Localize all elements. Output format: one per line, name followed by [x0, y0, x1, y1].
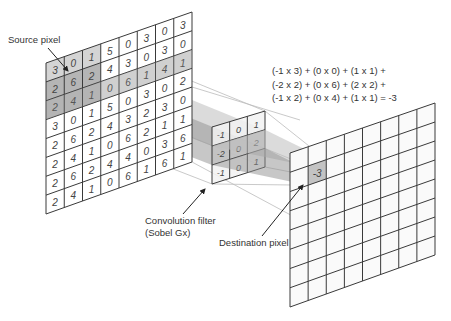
- callout-arrow-icon: [183, 189, 205, 214]
- grid-cell-value: 0: [162, 26, 168, 37]
- grid-cell-value: 3: [144, 33, 150, 44]
- sobel-gx-label: (Sobel Gx): [145, 227, 190, 239]
- grid-cell-value: 4: [107, 64, 113, 75]
- grid-cell-value: -1: [217, 168, 225, 178]
- source-image-grid: 3015030326243030241061413015030226243230…: [46, 12, 192, 214]
- grid-cell-value: 1: [89, 52, 95, 63]
- grid-cell-value: 3: [180, 20, 186, 31]
- grid-cell-value: 0: [162, 83, 168, 94]
- grid-cell-value: 0: [125, 96, 131, 107]
- grid-cell-value: 2: [51, 197, 58, 208]
- grid-cell-value: 1: [180, 151, 186, 162]
- grid-cell-value: 6: [71, 171, 77, 182]
- grid-cell-value: 1: [89, 108, 95, 119]
- destination-pixel-value: -3: [313, 168, 322, 179]
- grid-cell-value: 2: [88, 165, 95, 176]
- grid-cell-value: 3: [125, 114, 131, 125]
- grid-cell-value: 3: [125, 58, 131, 69]
- formula-line-2: (-2 x 2) + (0 x 6) + (2 x 2) +: [272, 78, 397, 92]
- grid-cell-value: 2: [179, 76, 186, 87]
- grid-cell-value: 6: [180, 133, 186, 144]
- grid-cell-value: 2: [51, 178, 58, 189]
- grid-cell-value: 6: [71, 134, 77, 145]
- grid-cell-value: 3: [162, 102, 168, 113]
- convolution-formula: (-1 x 3) + (0 x 0) + (1 x 1) + (-2 x 2) …: [272, 64, 397, 105]
- grid-cell-value: 1: [89, 184, 95, 195]
- convolution-filter-label: Convolution filter: [145, 215, 216, 227]
- grid-cell-value: 1: [254, 120, 259, 130]
- grid-cell-value: 4: [71, 153, 77, 164]
- grid-cell-value: 0: [125, 39, 131, 50]
- grid-cell-value: 4: [107, 121, 113, 132]
- destination-image-grid: -3: [290, 103, 435, 307]
- grid-cell-value: 3: [52, 121, 58, 132]
- grid-cell-value: 0: [236, 125, 241, 135]
- grid-cell-value: 2: [51, 159, 58, 170]
- source-pixel-label: Source pixel: [8, 34, 60, 46]
- grid-cell-value: -1: [217, 130, 225, 140]
- grid-cell-value: 6: [125, 171, 131, 182]
- grid-cell-value: 4: [125, 152, 131, 163]
- grid-cell-value: 1: [89, 146, 95, 157]
- grid-cell-value: 5: [107, 102, 113, 113]
- convolution-diagram: 3015030326243030241061413015030226243230…: [0, 0, 451, 321]
- grid-cell-value: 2: [51, 140, 58, 151]
- grid-cell-value: 2: [143, 127, 150, 138]
- grid-cell-value: 0: [144, 146, 150, 157]
- grid-cell-value: 2: [88, 71, 95, 82]
- grid-cell-value: 0: [180, 39, 186, 50]
- grid-cell-value: 0: [71, 58, 77, 69]
- grid-cell-value: 6: [71, 77, 77, 88]
- grid-cell-value: 3: [144, 89, 150, 100]
- grid-cell-value: 0: [180, 95, 186, 106]
- grid-cell-value: 5: [107, 46, 113, 57]
- grid-cell-value: 1: [162, 120, 168, 131]
- grid-cell-value: 2: [88, 127, 95, 138]
- grid-cell-value: 2: [51, 84, 58, 95]
- grid-cell-value: 3: [162, 139, 168, 150]
- grid-cell-value: 3: [52, 65, 58, 76]
- grid-cell-value: 3: [162, 45, 168, 56]
- grid-cell-value: 6: [125, 133, 131, 144]
- grid-cell-value: 6: [162, 158, 168, 169]
- grid-cell-value: 2: [143, 108, 150, 119]
- grid-cell-value: 0: [107, 177, 113, 188]
- formula-line-1: (-1 x 3) + (0 x 0) + (1 x 1) +: [272, 64, 397, 78]
- formula-line-3: (-1 x 2) + (0 x 4) + (1 x 1) = -3: [272, 91, 397, 105]
- grid-cell-value: 0: [107, 140, 113, 151]
- grid-cell-value: 1: [144, 164, 150, 175]
- grid-cell-value: 1: [180, 114, 186, 125]
- grid-cell-value: 0: [144, 52, 150, 63]
- destination-pixel-label: Destination pixel: [219, 237, 289, 249]
- grid-cell-value: 4: [107, 159, 113, 170]
- grid-cell-value: -2: [217, 149, 225, 159]
- grid-cell-value: 0: [71, 115, 77, 126]
- grid-cell-value: 4: [71, 190, 77, 201]
